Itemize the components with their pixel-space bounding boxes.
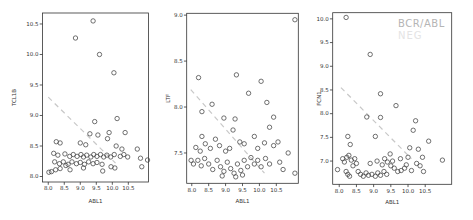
data-point xyxy=(140,165,144,169)
x-tick-label: 9.0 xyxy=(369,188,378,194)
x-tick-label: 10.0 xyxy=(253,187,266,193)
data-point xyxy=(213,137,217,141)
plot-box xyxy=(187,13,299,183)
y-tick-label: 9.5 xyxy=(30,82,39,88)
data-point xyxy=(222,169,226,173)
data-point xyxy=(63,152,67,156)
data-point xyxy=(53,168,57,172)
y-tick-label: 10.0 xyxy=(26,51,39,57)
data-point xyxy=(348,142,352,146)
plot-box xyxy=(43,13,149,182)
y-tick-label: 8.5 xyxy=(30,143,39,149)
data-point xyxy=(267,125,271,129)
data-point xyxy=(211,167,215,171)
data-point xyxy=(218,165,222,169)
data-point xyxy=(252,162,256,166)
y-tick-label: 8.0 xyxy=(30,173,39,179)
data-point xyxy=(413,119,417,123)
data-point xyxy=(92,119,96,123)
x-tick-label: 8.0 xyxy=(187,187,196,193)
data-point xyxy=(73,36,77,40)
data-point xyxy=(225,160,229,164)
data-point xyxy=(210,102,214,106)
y-tick-label: 10.5 xyxy=(26,21,39,27)
y-axis-label: FCN1 xyxy=(316,91,322,106)
data-point xyxy=(286,151,290,155)
data-point xyxy=(123,130,127,134)
data-point xyxy=(49,169,53,173)
y-tick-label: 8.0 xyxy=(174,104,183,110)
y-tick-label: 10.0 xyxy=(316,16,329,22)
data-point xyxy=(100,162,104,166)
data-point xyxy=(293,18,297,22)
data-point xyxy=(346,134,350,138)
data-point xyxy=(354,161,358,165)
data-point xyxy=(376,171,380,175)
data-point xyxy=(233,117,237,121)
data-point xyxy=(78,141,82,145)
data-point xyxy=(265,100,269,104)
data-point xyxy=(215,158,219,162)
data-point xyxy=(368,52,372,56)
data-point xyxy=(378,115,382,119)
data-point xyxy=(70,160,74,164)
data-point xyxy=(198,149,202,153)
y-axis-label: TCL1B xyxy=(11,89,17,107)
data-point xyxy=(344,15,348,19)
data-point xyxy=(95,160,99,164)
data-point xyxy=(115,116,119,120)
data-point xyxy=(114,144,118,148)
scatter-panel-2: 7.58.08.59.0ABL1LTF xyxy=(165,12,298,204)
data-point xyxy=(256,158,260,162)
data-point xyxy=(203,142,207,146)
data-point xyxy=(262,141,266,145)
data-point xyxy=(365,115,369,119)
data-point xyxy=(200,134,204,138)
y-tick-label: 7.5 xyxy=(174,150,183,156)
data-point xyxy=(84,143,88,147)
data-point xyxy=(421,169,425,173)
data-point xyxy=(263,156,267,160)
x-tick-label: 9.0 xyxy=(76,185,85,191)
data-point xyxy=(440,158,444,162)
data-point xyxy=(276,140,280,144)
y-axis-label: LTF xyxy=(165,94,171,103)
data-point xyxy=(281,167,285,171)
gene-expression-scatter-figure: 8.08.59.09.510.010.5ABL1TCL1B8.08.59.09.… xyxy=(0,0,473,220)
data-point xyxy=(135,147,139,151)
data-point xyxy=(56,153,60,157)
data-point xyxy=(191,162,195,166)
data-point xyxy=(271,143,275,147)
data-point xyxy=(388,152,392,156)
data-point xyxy=(378,92,382,96)
x-tick-label: 8.0 xyxy=(44,185,53,191)
data-point xyxy=(416,147,420,151)
data-point xyxy=(375,159,379,163)
data-point xyxy=(384,172,388,176)
data-point xyxy=(409,168,413,172)
data-point xyxy=(112,152,116,156)
data-point xyxy=(426,139,430,143)
data-point xyxy=(68,168,72,172)
data-point xyxy=(222,116,226,120)
data-point xyxy=(89,155,93,159)
data-point xyxy=(278,160,282,164)
data-point xyxy=(138,156,142,160)
x-axis-label: ABL1 xyxy=(88,198,102,204)
x-tick-label: 8.5 xyxy=(60,185,69,191)
data-point xyxy=(194,145,198,149)
data-point xyxy=(356,169,360,173)
x-tick-label: 10.5 xyxy=(122,185,135,191)
data-point xyxy=(406,155,410,159)
data-point xyxy=(368,161,372,165)
data-point xyxy=(378,173,382,177)
y-tick-label: 9.0 xyxy=(174,12,183,18)
data-point xyxy=(246,91,250,95)
data-point xyxy=(52,151,56,155)
trend-line xyxy=(191,90,265,174)
data-point xyxy=(392,166,396,170)
x-tick-label: 8.5 xyxy=(352,188,361,194)
x-tick-label: 9.5 xyxy=(92,185,101,191)
data-point xyxy=(398,157,402,161)
x-tick-label: 10.0 xyxy=(402,188,415,194)
